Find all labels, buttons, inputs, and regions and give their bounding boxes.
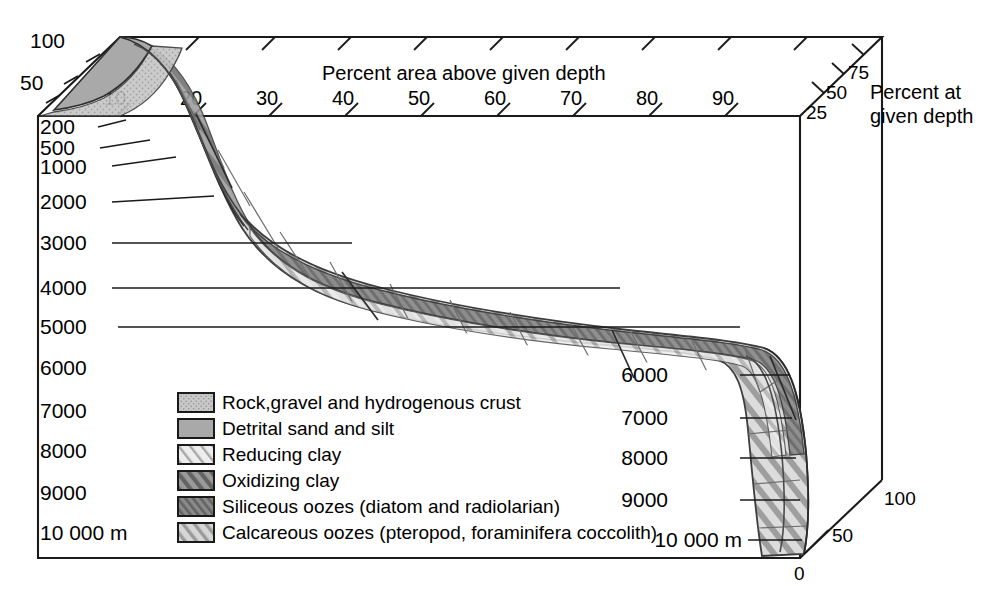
top-back-tick-20 [262, 37, 275, 50]
top-tick-label-90: 90 [712, 87, 734, 109]
depth-label-7000: 7000 [40, 399, 87, 422]
legend-swatch-oxidizing-clay [178, 471, 214, 490]
depth-leader-2000 [112, 196, 214, 202]
left-upper-label-50: 50 [20, 71, 43, 94]
right-percent-label-25: 25 [806, 102, 827, 123]
top-tick-label-40: 40 [332, 87, 354, 109]
bottom-right-label-0: 0 [794, 563, 805, 584]
legend-swatch-rock-gravel [178, 393, 214, 412]
top-back-tick-50 [490, 37, 503, 50]
depth-leader-200 [98, 120, 126, 127]
top-tick-label-70: 70 [560, 87, 582, 109]
top-tick-label-60: 60 [484, 87, 506, 109]
right-axis-title-line2: given depth [870, 105, 973, 127]
top-back-tick-40 [414, 37, 427, 50]
depth-label-2000: 2000 [40, 190, 87, 213]
depth-label-8000: 8000 [40, 439, 87, 462]
depth-label-5000: 5000 [40, 315, 87, 338]
legend-label-calcareous-ooze: Calcareous oozes (pteropod, foraminifera… [222, 522, 657, 543]
legend-swatch-siliceous-ooze [178, 497, 214, 516]
right-percent-labels: 25 50 75 [806, 62, 869, 123]
right-depth-label-8000: 8000 [621, 446, 668, 469]
left-upper-label-100: 100 [30, 29, 65, 52]
left-depth-labels: 200 500 1000 2000 3000 4000 5000 6000 70… [40, 115, 128, 544]
legend-swatch-calcareous-ooze [178, 523, 214, 542]
right-depth-label-9000: 9000 [621, 488, 668, 511]
depth-leader-1000 [112, 157, 176, 166]
sediment-surface [40, 37, 808, 556]
depth-label-6000: 6000 [40, 356, 87, 379]
legend-label-rock-gravel: Rock,gravel and hydrogenous crust [222, 392, 522, 413]
top-back-tick-30 [338, 37, 351, 50]
depth-label-200: 200 [40, 115, 75, 138]
right-percent-label-75: 75 [848, 62, 869, 83]
legend-label-reducing-clay: Reducing clay [222, 444, 342, 465]
depth-label-10000: 10 000 m [40, 521, 128, 544]
depth-label-1000: 1000 [40, 155, 87, 178]
right-depth-label-10000: 10 000 m [654, 528, 742, 551]
depth-label-9000: 9000 [40, 481, 87, 504]
band-meridian-3 [196, 114, 232, 188]
top-tick-label-30: 30 [256, 87, 278, 109]
right-percent-tick-50 [832, 63, 844, 74]
top-back-tick-80 [718, 37, 731, 50]
legend-swatch-reducing-clay [178, 445, 214, 464]
right-percent-tick-25 [812, 82, 824, 93]
figure-container: 10 10 20 20 30 40 50 60 70 80 90 Percent… [0, 0, 987, 606]
bottom-right-label-100: 100 [884, 488, 916, 509]
right-percent-label-50: 50 [826, 82, 847, 103]
right-depth-label-7000: 7000 [621, 406, 668, 429]
legend-label-oxidizing-clay: Oxidizing clay [222, 470, 340, 491]
right-percent-tick-75 [852, 44, 864, 55]
top-tick-label-80: 80 [636, 87, 658, 109]
bottom-right-labels: 100 50 0 [794, 488, 916, 584]
legend: Rock,gravel and hydrogenous crust Detrit… [178, 392, 657, 543]
right-depth-label-6000: 6000 [621, 363, 668, 386]
depth-label-3000: 3000 [40, 231, 87, 254]
depth-leader-500 [100, 140, 150, 148]
right-axis-title-line1: Percent at [870, 81, 962, 103]
top-back-tick-90 [794, 37, 807, 50]
legend-label-detrital-sand: Detrital sand and silt [222, 418, 395, 439]
top-back-tick-60 [566, 37, 579, 50]
top-back-tick-70 [642, 37, 655, 50]
legend-swatch-detrital-sand [178, 419, 214, 438]
depth-label-4000: 4000 [40, 276, 87, 299]
legend-label-siliceous-ooze: Siliceous oozes (diatom and radiolarian) [222, 496, 560, 517]
bottom-right-label-50: 50 [832, 525, 853, 546]
top-axis-title: Percent area above given depth [322, 62, 606, 84]
top-back-tick-10 [186, 37, 199, 50]
top-tick-label-50: 50 [408, 87, 430, 109]
